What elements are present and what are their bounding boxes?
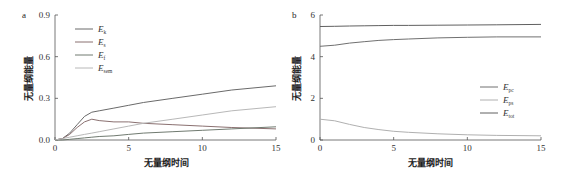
y-tick-label: 6 [311,10,316,20]
y-tick-label: 0.6 [39,52,51,62]
y-tick-label: 0 [311,135,316,145]
panel-b-y-axis-title: 无量纲能量 [291,56,302,102]
legend-label: Etot [502,108,515,119]
x-tick-label: 5 [126,143,131,153]
x-tick-label: 15 [537,143,547,153]
panel-a-x-axis-title: 无量纲时间 [143,157,189,168]
series-line-E_s [55,119,276,140]
figure: a 0.00.30.60.9 051015 EkEsEfEsem 无量纲时间 无… [0,0,563,181]
panel-a-y-axis-title: 无量纲能量 [23,56,34,102]
panel-b-x-axis-title: 无量纲时间 [407,157,453,168]
panel-b: b 0246 051015 EpcEpsEtot 无量纲时间 无量纲能量 [291,10,546,168]
panel-a: a 0.00.30.60.9 051015 EkEsEfEsem 无量纲时间 无… [22,10,281,168]
panel-a-legend: EkEsEfEsem [75,24,113,74]
legend-label: Ef [97,50,106,61]
series-line-E_pc [320,37,541,46]
x-tick-label: 10 [463,143,473,153]
legend-label: Eps [502,95,513,106]
x-tick-label: 0 [318,143,323,153]
y-tick-label: 0.0 [39,135,51,145]
series-line-E_tot [320,24,541,26]
series-line-E_sem [55,107,276,140]
y-tick-label: 4 [311,52,316,62]
series-line-E_ps [320,119,541,136]
legend-label: Epc [502,82,514,93]
legend-label: Esem [97,63,113,74]
x-tick-label: 5 [391,143,396,153]
y-tick-label: 0.9 [39,10,51,20]
panel-a-label: a [22,10,26,20]
x-tick-label: 10 [198,143,208,153]
panel-b-label: b [292,10,297,20]
x-tick-label: 0 [53,143,58,153]
legend-label: Es [97,37,106,48]
panel-b-legend: EpcEpsEtot [480,82,515,119]
y-tick-label: 2 [311,93,316,103]
x-tick-label: 15 [272,143,282,153]
panel-b-series [320,24,541,135]
y-tick-label: 0.3 [39,93,51,103]
panel-b-y-ticks: 0246 [311,10,324,145]
panel-a-series [55,86,276,140]
panel-a-x-ticks: 051015 [53,137,281,153]
legend-label: Ek [97,24,107,35]
panel-b-x-ticks: 051015 [318,137,546,153]
